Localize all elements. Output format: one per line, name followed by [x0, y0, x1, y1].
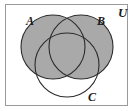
set-label-b: B [97, 15, 105, 27]
set-label-c: C [88, 91, 96, 103]
set-label-a: A [26, 15, 34, 27]
universe-label: U [118, 6, 127, 19]
venn-diagram-figure: A B C U [0, 0, 139, 111]
